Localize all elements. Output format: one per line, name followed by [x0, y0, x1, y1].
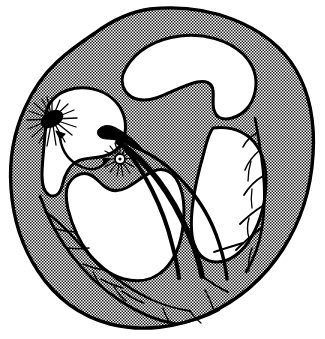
cardiac-conduction-figure: Cardiac Conduction System Coronal sectio… — [0, 0, 325, 339]
purkinje-branch — [251, 189, 252, 208]
heart-diagram-svg — [0, 0, 325, 339]
av-burst-center — [118, 157, 121, 160]
purkinje-branch — [68, 248, 89, 249]
